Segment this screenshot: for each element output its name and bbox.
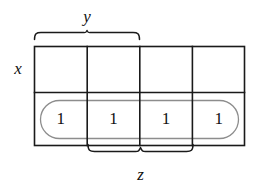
label-variable-x: x <box>13 59 22 78</box>
brace-y-path <box>35 31 140 40</box>
kmap-grid <box>35 47 245 146</box>
label-variable-y: y <box>81 7 91 26</box>
cell-r2c1: 1 <box>56 109 65 128</box>
brace-y <box>35 31 140 40</box>
label-variable-z: z <box>136 165 144 184</box>
cell-r2c2: 1 <box>109 109 118 128</box>
cell-r2c4: 1 <box>215 109 224 128</box>
cell-r2c3: 1 <box>162 109 171 128</box>
karnaugh-map-canvas: y x 1 1 1 1 z <box>0 0 255 193</box>
karnaugh-map-figure: y x 1 1 1 1 z <box>0 0 255 193</box>
